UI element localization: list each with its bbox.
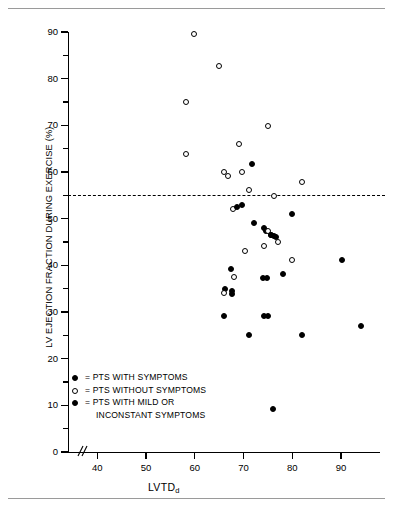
x-tick-label-80: 80 — [272, 463, 312, 473]
legend-marker-filled-circle — [72, 375, 78, 381]
data-point — [265, 313, 271, 319]
data-point — [221, 313, 227, 319]
y-tick-minor-5 — [63, 428, 68, 429]
data-point — [299, 179, 305, 185]
data-point — [221, 290, 227, 296]
data-point — [242, 248, 248, 254]
x-tick-40 — [97, 452, 98, 459]
data-point — [251, 220, 257, 226]
data-point — [236, 141, 242, 147]
data-point — [225, 173, 231, 179]
axis-break-icon — [76, 443, 90, 459]
y-tick-20 — [61, 358, 68, 359]
y-tick-50 — [61, 218, 68, 219]
legend-label: = PTS WITHOUT SYMPTOMS — [85, 384, 206, 397]
data-point — [268, 232, 274, 238]
y-tick-label-80: 80 — [28, 74, 58, 83]
data-point — [216, 63, 222, 69]
y-tick-30 — [61, 311, 68, 312]
data-point — [246, 187, 252, 193]
x-tick-90 — [340, 452, 341, 459]
data-point — [234, 204, 240, 210]
data-point — [270, 406, 276, 412]
legend-label: = PTS WITH SYMPTOMS — [85, 371, 188, 384]
data-point — [265, 123, 271, 129]
x-axis-title: LVTDd — [148, 481, 180, 493]
y-axis-title: LV EJECTION FRACTION DURING EXERCISE (%) — [44, 107, 54, 367]
data-point — [280, 271, 286, 277]
data-point — [264, 275, 270, 281]
data-point — [246, 332, 252, 338]
y-tick-minor-45 — [63, 241, 68, 242]
x-tick-label-90: 90 — [321, 463, 361, 473]
y-tick-10 — [61, 405, 68, 406]
data-point — [231, 274, 237, 280]
y-tick-minor-15 — [63, 381, 68, 382]
y-tick-70 — [61, 125, 68, 126]
x-tick-70 — [243, 452, 244, 459]
x-axis-line — [68, 452, 380, 453]
x-tick-label-70: 70 — [224, 463, 264, 473]
x-tick-60 — [194, 452, 195, 459]
data-point — [275, 239, 281, 245]
data-point — [261, 243, 267, 249]
x-tick-label-50: 50 — [126, 463, 166, 473]
data-point — [271, 193, 277, 199]
y-tick-label-10: 10 — [28, 400, 58, 409]
y-tick-minor-65 — [63, 148, 68, 149]
data-point — [249, 161, 255, 167]
x-axis-title-sub: d — [175, 486, 179, 495]
y-tick-label-90: 90 — [28, 27, 58, 36]
legend-marker-open-circle — [72, 388, 78, 394]
data-point — [228, 266, 234, 272]
data-point — [339, 257, 345, 263]
y-tick-60 — [61, 171, 68, 172]
data-point — [183, 99, 189, 105]
data-point — [183, 151, 189, 157]
y-tick-minor-35 — [63, 288, 68, 289]
scatter-plot: 0102030405060708090 405060708090 LV EJEC… — [0, 0, 393, 514]
reference-line-55 — [68, 195, 385, 196]
data-point — [299, 332, 305, 338]
y-tick-80 — [61, 78, 68, 79]
y-tick-minor-85 — [63, 55, 68, 56]
x-tick-label-60: 60 — [175, 463, 215, 473]
data-point — [289, 257, 295, 263]
x-tick-50 — [145, 452, 146, 459]
data-point — [239, 169, 245, 175]
y-tick-40 — [61, 265, 68, 266]
y-tick-label-0: 0 — [28, 447, 58, 456]
x-tick-label-40: 40 — [77, 463, 117, 473]
x-axis-title-main: LVTD — [148, 481, 175, 493]
x-tick-80 — [292, 452, 293, 459]
data-point — [229, 291, 235, 297]
y-tick-minor-25 — [63, 335, 68, 336]
y-tick-minor-75 — [63, 101, 68, 102]
data-point — [289, 211, 295, 217]
legend-marker-half-filled-circle — [72, 400, 78, 406]
y-tick-90 — [61, 31, 68, 32]
data-point — [358, 323, 364, 329]
figure-container: 0102030405060708090 405060708090 LV EJEC… — [0, 0, 393, 514]
y-axis-line — [68, 32, 69, 452]
legend-label-continued: INCONSTANT SYMPTOMS — [96, 409, 205, 422]
legend-label: = PTS WITH MILD OR — [85, 396, 174, 409]
data-point — [191, 31, 197, 37]
y-tick-0 — [61, 451, 68, 452]
